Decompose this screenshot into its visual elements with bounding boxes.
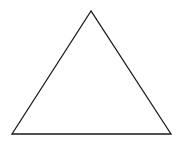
triangle-figure [0, 0, 177, 141]
diagram-canvas [0, 0, 177, 141]
triangle-shape [12, 11, 171, 134]
